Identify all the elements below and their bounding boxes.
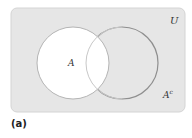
set-a-label: A (67, 58, 75, 68)
universe-label: U (170, 15, 179, 26)
figure-caption: (a) (11, 118, 27, 129)
venn-diagram: U A Ac (0, 0, 192, 138)
